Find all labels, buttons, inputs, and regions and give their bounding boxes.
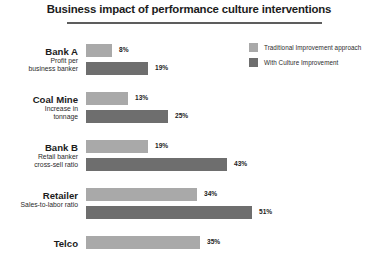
category-labels: Telco bbox=[0, 238, 78, 249]
bar-culture[interactable] bbox=[86, 62, 148, 75]
category-labels: Bank B Retail banker cross-sell ratio bbox=[0, 142, 78, 170]
category-labels: Retailer Sales-to-labor ratio bbox=[0, 190, 78, 209]
bar-value-culture: 43% bbox=[234, 160, 247, 167]
category-labels: Coal Mine Increase in tonnage bbox=[0, 94, 78, 122]
bar-traditional[interactable] bbox=[86, 140, 148, 153]
category-name: Bank A bbox=[0, 46, 78, 57]
bar-value-traditional: 34% bbox=[204, 190, 217, 197]
category-name: Bank B bbox=[0, 142, 78, 153]
bar-traditional[interactable] bbox=[86, 188, 197, 201]
bar-culture[interactable] bbox=[86, 206, 252, 219]
bar-value-culture: 51% bbox=[259, 208, 272, 215]
plot-area: Bank A Profit per business banker 8% 19%… bbox=[0, 0, 378, 255]
chart-figure: Business impact of performance culture i… bbox=[0, 0, 378, 255]
category-name: Retailer bbox=[0, 190, 78, 201]
bar-value-traditional: 19% bbox=[155, 142, 168, 149]
category-sublabel: Increase in bbox=[0, 105, 78, 113]
category-name: Telco bbox=[0, 238, 78, 249]
category-sublabel: tonnage bbox=[0, 113, 78, 121]
category-sublabel: Retail banker bbox=[0, 153, 78, 161]
bar-traditional[interactable] bbox=[86, 44, 112, 57]
bar-value-culture: 25% bbox=[175, 112, 188, 119]
category-labels: Bank A Profit per business banker bbox=[0, 46, 78, 74]
bar-value-traditional: 13% bbox=[135, 94, 148, 101]
category-sublabel: cross-sell ratio bbox=[0, 161, 78, 169]
bar-value-culture: 19% bbox=[155, 64, 168, 71]
category-name: Coal Mine bbox=[0, 94, 78, 105]
category-sublabel: Profit per bbox=[0, 57, 78, 65]
bar-traditional[interactable] bbox=[86, 236, 200, 249]
bar-value-traditional: 8% bbox=[119, 46, 129, 53]
category-sublabel: Sales-to-labor ratio bbox=[0, 201, 78, 209]
bar-culture[interactable] bbox=[86, 158, 227, 171]
bar-traditional[interactable] bbox=[86, 92, 128, 105]
bar-value-traditional: 35% bbox=[207, 238, 220, 245]
bar-culture[interactable] bbox=[86, 110, 168, 123]
category-sublabel: business banker bbox=[0, 65, 78, 73]
